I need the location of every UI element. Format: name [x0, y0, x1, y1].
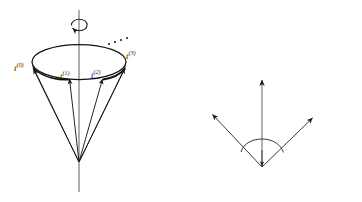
- vector-t3-label-sup: (3): [129, 50, 136, 56]
- rotation-angle-panel: t Cnt Cn−1t 2π n: [181, 0, 362, 202]
- ellipsis-dots: [108, 36, 134, 46]
- figure-root: t(0) t(1) t(2) t(3): [0, 0, 362, 202]
- angle-diagram-svg: [181, 0, 362, 202]
- vector-t1-label-sup: (1): [63, 70, 70, 76]
- vector-t0-label-sup: (0): [17, 62, 24, 68]
- vector-t1-label: t(1): [60, 70, 70, 81]
- vector-t1: [70, 79, 80, 162]
- vector-t3-label: t(3): [126, 50, 136, 61]
- vector-cn-inverse-t: [262, 118, 313, 167]
- vector-t0-label: t(0): [14, 62, 24, 73]
- cone-diagram-svg: [0, 0, 181, 202]
- vector-t0: [33, 69, 79, 162]
- vector-t2-label-sup: (2): [94, 69, 101, 75]
- vector-cn-t: [213, 115, 263, 168]
- vector-t2-label: t(2): [91, 69, 101, 80]
- cone-orbit-panel: t(0) t(1) t(2) t(3): [0, 0, 181, 202]
